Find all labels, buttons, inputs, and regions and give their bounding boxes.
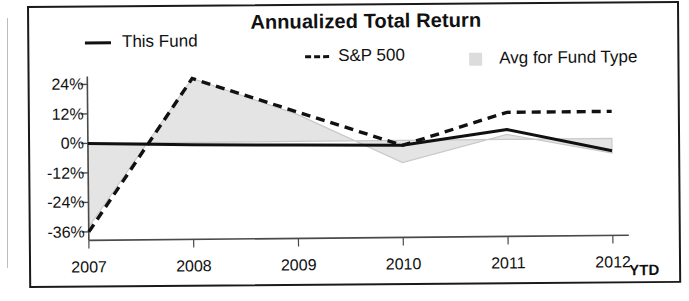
annualized-total-return-chart: Annualized Total Return This Fund S&P 50… bbox=[0, 0, 689, 301]
x-axis-tick-labels: 200720082009201020112012 bbox=[0, 0, 689, 301]
x-axis-tick-2011: 2011 bbox=[478, 254, 538, 273]
x-axis-ytd-label: YTD bbox=[629, 261, 659, 278]
x-axis-tick-2008: 2008 bbox=[164, 257, 224, 276]
x-axis-tick-2010: 2010 bbox=[373, 255, 433, 274]
x-axis-tick-2007: 2007 bbox=[59, 258, 119, 277]
x-axis-tick-2009: 2009 bbox=[269, 256, 329, 275]
